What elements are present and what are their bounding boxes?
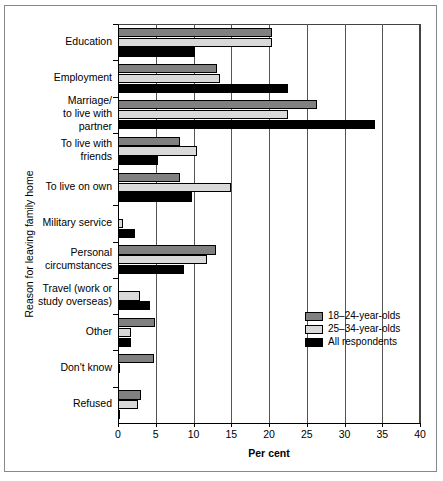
category-label-line: to live with xyxy=(8,107,112,120)
x-tick xyxy=(307,423,308,427)
bar-group xyxy=(118,64,420,93)
legend-label: All respondents xyxy=(328,336,397,348)
bar xyxy=(118,137,180,146)
legend-label: 18–24-year-olds xyxy=(328,310,400,322)
y-tick xyxy=(113,314,118,315)
x-tick-label: 10 xyxy=(179,428,209,440)
bar-group xyxy=(118,282,420,311)
chart-figure: EducationEmploymentMarriage/to live with… xyxy=(0,0,443,481)
x-tick xyxy=(382,423,383,427)
bar xyxy=(118,318,155,327)
bar xyxy=(118,328,131,337)
x-tick-label: 25 xyxy=(292,428,322,440)
bar xyxy=(118,291,140,300)
bar-group xyxy=(118,137,420,166)
bar xyxy=(118,183,231,192)
bar xyxy=(118,390,141,399)
gridline xyxy=(420,24,421,423)
bar xyxy=(118,354,154,363)
y-tick xyxy=(113,60,118,61)
legend-item: 18–24-year-olds xyxy=(305,310,400,322)
y-tick xyxy=(113,350,118,351)
category-label-line: Refused xyxy=(8,397,112,410)
bar-group xyxy=(118,100,420,129)
bar xyxy=(118,400,138,409)
bar-group xyxy=(118,173,420,202)
x-tick-label: 35 xyxy=(367,428,397,440)
legend-label: 25–34-year-olds xyxy=(328,323,400,335)
bar xyxy=(118,47,195,56)
chart-legend: 18–24-year-olds25–34-year-oldsAll respon… xyxy=(305,310,400,349)
bar xyxy=(118,100,317,109)
bar xyxy=(118,255,207,264)
x-tick xyxy=(269,423,270,427)
y-tick xyxy=(113,242,118,243)
x-tick xyxy=(420,423,421,427)
category-label: Education xyxy=(8,35,112,48)
bar-group xyxy=(118,245,420,274)
bar xyxy=(118,120,375,129)
x-tick xyxy=(231,423,232,427)
bar-group xyxy=(118,209,420,238)
y-tick xyxy=(113,97,118,98)
y-tick xyxy=(113,278,118,279)
x-tick xyxy=(156,423,157,427)
bar xyxy=(118,265,184,274)
bar-group xyxy=(118,390,420,419)
y-tick xyxy=(113,205,118,206)
y-tick xyxy=(113,169,118,170)
y-tick xyxy=(113,387,118,388)
category-label: Employment xyxy=(8,71,112,84)
bar-group xyxy=(118,354,420,383)
bar xyxy=(118,301,150,310)
category-label-line: Education xyxy=(8,35,112,48)
category-label-line: Marriage/ xyxy=(8,94,112,107)
bar xyxy=(118,156,158,165)
x-tick xyxy=(345,423,346,427)
bar xyxy=(118,146,197,155)
bar-group xyxy=(118,28,420,57)
x-tick xyxy=(118,423,119,427)
y-tick xyxy=(113,24,118,25)
bar xyxy=(118,84,288,93)
legend-item: All respondents xyxy=(305,336,400,348)
bar xyxy=(118,245,216,254)
legend-swatch xyxy=(305,312,323,321)
x-tick-label: 20 xyxy=(254,428,284,440)
legend-swatch xyxy=(305,338,323,347)
x-tick-label: 0 xyxy=(103,428,133,440)
bar xyxy=(118,28,272,37)
bar xyxy=(118,229,135,238)
x-tick-label: 15 xyxy=(216,428,246,440)
legend-item: 25–34-year-olds xyxy=(305,323,400,335)
bar xyxy=(118,38,272,47)
category-label-line: Employment xyxy=(8,71,112,84)
x-tick xyxy=(194,423,195,427)
category-label: Refused xyxy=(8,397,112,410)
x-tick-label: 40 xyxy=(405,428,435,440)
bar xyxy=(118,219,123,228)
bar xyxy=(118,64,217,73)
x-tick-label: 30 xyxy=(330,428,360,440)
x-tick-label: 5 xyxy=(141,428,171,440)
bar xyxy=(118,173,180,182)
y-tick xyxy=(113,133,118,134)
bar xyxy=(118,364,120,373)
bar xyxy=(118,110,288,119)
bar xyxy=(118,192,192,201)
bar xyxy=(118,74,220,83)
bar xyxy=(118,410,120,419)
bar xyxy=(118,338,131,347)
x-axis-title: Per cent xyxy=(118,447,420,459)
y-axis-title: Reason for leaving family home xyxy=(23,124,35,364)
legend-swatch xyxy=(305,325,323,334)
